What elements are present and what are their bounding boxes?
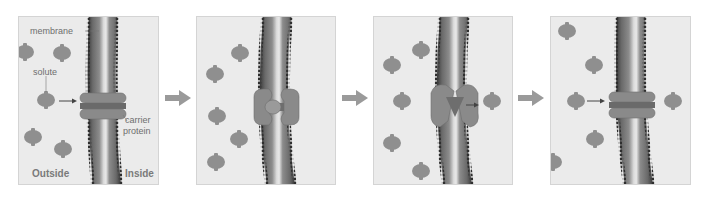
step-arrow-1-icon — [165, 90, 191, 106]
inside-label: Inside — [125, 169, 154, 179]
membrane-illustration-2 — [197, 17, 336, 185]
solute-label: solute — [33, 67, 57, 77]
carrier-protein-label-2: protein — [123, 126, 151, 136]
panel-step-3 — [373, 16, 513, 185]
carrier-protein-reset — [609, 92, 655, 118]
carrier-protein-label-1: carrier — [125, 115, 151, 125]
membrane-illustration-3 — [374, 17, 513, 185]
step-arrow-3-icon — [518, 90, 544, 106]
membrane-label: membrane — [30, 26, 73, 36]
panel-step-2 — [196, 16, 336, 185]
panel-step-4 — [550, 16, 691, 185]
membrane-illustration-1 — [19, 17, 159, 185]
step-arrow-2-icon — [342, 90, 368, 106]
membrane-illustration-4 — [551, 17, 691, 185]
outside-label: Outside — [32, 169, 69, 179]
panel-step-1: membrane solute carrier protein Outside … — [18, 16, 159, 185]
carrier-protein — [80, 93, 126, 119]
